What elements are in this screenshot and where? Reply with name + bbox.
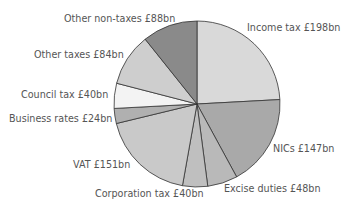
label-nics: NICs £147bn [273,143,334,154]
label-income-tax: Income tax £198bn [247,22,340,33]
label-corporation-tax: Corporation tax £40bn [95,188,204,199]
label-other-taxes: Other taxes £84bn [34,49,124,60]
pie-slices [114,21,280,187]
pie-slice-income-tax [197,21,280,104]
label-business-rates: Business rates £24bn [9,113,112,124]
pie-chart: Income tax £198bn NICs £147bn Excise dut… [0,0,349,212]
label-other-non-taxes: Other non-taxes £88bn [64,13,175,24]
label-excise-duties: Excise duties £48bn [224,183,321,194]
label-council-tax: Council tax £40bn [21,89,108,100]
label-vat: VAT £151bn [73,159,130,170]
